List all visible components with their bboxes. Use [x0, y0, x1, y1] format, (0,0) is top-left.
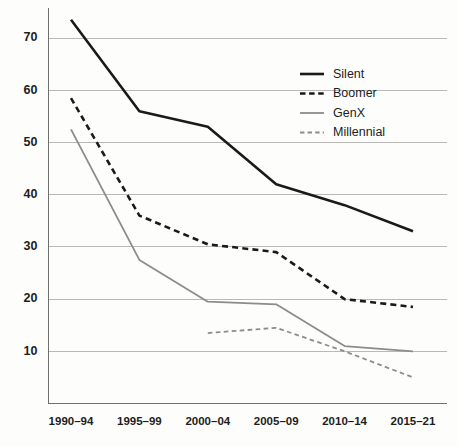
series-line-genx — [71, 129, 413, 351]
chart-canvas: 10203040506070 1990–941995–992000–042005… — [0, 0, 457, 446]
x-tick-label: 1995–99 — [117, 415, 162, 427]
legend-label-millennial: Millennial — [333, 125, 385, 139]
x-tick-label: 1990–94 — [49, 415, 94, 427]
x-tick-label: 2000–04 — [185, 415, 230, 427]
legend-label-boomer: Boomer — [333, 86, 377, 100]
y-tick-label: 40 — [24, 187, 38, 201]
x-tick-labels: 1990–941995–992000–042005–092010–142015–… — [49, 415, 436, 427]
y-tick-label: 10 — [24, 344, 38, 358]
y-tick-label: 20 — [24, 291, 38, 305]
series-line-millennial — [208, 328, 413, 378]
x-tick-label: 2015–21 — [391, 415, 436, 427]
x-tick-label: 2010–14 — [322, 415, 367, 427]
y-tick-label: 50 — [24, 135, 38, 149]
y-tick-label: 60 — [24, 83, 38, 97]
legend-label-silent: Silent — [333, 67, 365, 81]
chart-legend: SilentBoomerGenXMillennial — [300, 67, 385, 140]
gridlines — [49, 38, 448, 351]
y-tick-label: 70 — [24, 30, 38, 44]
x-tick-label: 2005–09 — [254, 415, 299, 427]
y-tick-labels: 10203040506070 — [24, 30, 38, 357]
legend-label-genx: GenX — [333, 106, 366, 120]
line-chart: 10203040506070 1990–941995–992000–042005… — [0, 0, 457, 446]
y-tick-label: 30 — [24, 239, 38, 253]
